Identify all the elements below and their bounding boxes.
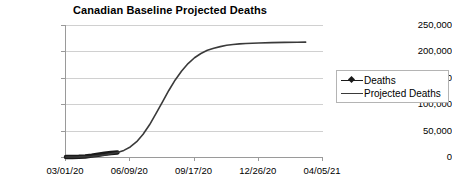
x-axis-tick-label: 06/09/20	[94, 165, 164, 176]
x-axis-tick-label: 12/26/20	[223, 165, 293, 176]
legend-item-label: Projected Deaths	[364, 88, 441, 99]
series-line-projected-deaths	[66, 42, 306, 157]
legend-item-label: Deaths	[364, 75, 396, 86]
y-axis-tick-label: 50,000	[394, 126, 452, 136]
x-axis-tick-label: 03/01/20	[30, 165, 100, 176]
series-lines	[66, 25, 323, 157]
legend: DeathsProjected Deaths	[336, 70, 449, 103]
y-axis-tick-label: 250,000	[394, 20, 452, 30]
x-axis-tick-label: 04/05/21	[287, 165, 357, 176]
legend-line-diamond-icon	[340, 76, 364, 85]
y-axis-tick-label: 200,000	[394, 46, 452, 56]
legend-line-icon	[340, 89, 364, 98]
y-axis-tick-label: 0	[394, 152, 452, 162]
legend-item: Deaths	[340, 74, 448, 87]
plot-area	[65, 25, 323, 158]
x-axis-tick-label: 09/17/20	[159, 165, 229, 176]
legend-item: Projected Deaths	[340, 87, 448, 100]
chart-screenshot: Canadian Baseline Projected Deaths 250,0…	[0, 0, 452, 188]
page-title: Canadian Baseline Projected Deaths	[0, 4, 340, 16]
